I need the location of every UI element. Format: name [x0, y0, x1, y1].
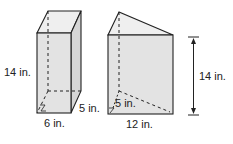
tri-prism-height-label: 14 in. — [199, 70, 226, 82]
tri-height-label: 5 in. — [115, 97, 136, 109]
tri-prism-top-face — [108, 12, 173, 35]
rect-width-label: 6 in. — [44, 117, 65, 129]
prisms-diagram: 14 in. 5 in. 6 in. 5 in. 12 in. 14 in. — [0, 0, 233, 144]
rectangular-prism: 14 in. 5 in. 6 in. — [4, 11, 100, 129]
rect-depth-label: 5 in. — [79, 102, 100, 114]
arrow-up-icon — [191, 38, 196, 44]
rect-prism-front-face — [37, 33, 71, 113]
tri-base-label: 12 in. — [126, 118, 153, 130]
triangular-prism: 5 in. 12 in. 14 in. — [108, 12, 226, 130]
arrow-down-icon — [191, 108, 196, 114]
rect-height-label: 14 in. — [4, 66, 31, 78]
